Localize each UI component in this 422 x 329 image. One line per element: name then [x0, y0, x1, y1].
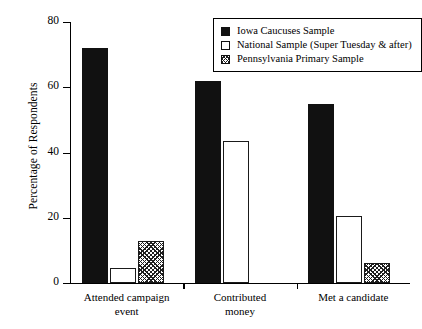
legend-item-iowa: Iowa Caucuses Sample [221, 24, 412, 38]
y-axis-line [70, 22, 71, 283]
y-tick: 80 [63, 22, 70, 23]
bar [308, 104, 334, 283]
x-axis-line [70, 283, 410, 284]
bar [223, 141, 249, 283]
x-group-separator [297, 283, 298, 289]
legend-label-iowa: Iowa Caucuses Sample [237, 26, 334, 37]
legend-item-pennsylvania: Pennsylvania Primary Sample [221, 52, 412, 66]
y-tick: 0 [63, 283, 70, 284]
bar [364, 263, 390, 283]
legend: Iowa Caucuses Sample National Sample (Su… [213, 18, 422, 72]
x-axis-category-label: Met a candidate [297, 291, 410, 305]
bar [82, 48, 108, 283]
legend-swatch-open-icon [221, 41, 230, 50]
bar [195, 81, 221, 283]
x-axis-category-label: Attended campaignevent [70, 291, 183, 319]
y-tick: 60 [63, 87, 70, 88]
legend-label-national: National Sample (Super Tuesday & after) [237, 40, 412, 51]
bar [110, 268, 136, 283]
x-group-separator [183, 283, 184, 289]
y-tick-label: 20 [48, 210, 60, 222]
bar [138, 241, 164, 283]
legend-swatch-solid-icon [221, 27, 230, 36]
y-tick-label: 0 [53, 275, 59, 287]
bar [336, 216, 362, 283]
legend-swatch-hatch-icon [221, 55, 230, 64]
y-tick: 20 [63, 218, 70, 219]
y-tick-label: 80 [48, 14, 60, 26]
y-tick-label: 60 [48, 79, 60, 91]
y-tick: 40 [63, 153, 70, 154]
x-axis-category-label: Contributedmoney [183, 291, 296, 319]
legend-label-pennsylvania: Pennsylvania Primary Sample [237, 54, 364, 65]
y-tick-label: 40 [48, 145, 60, 157]
y-axis-title: Percentage of Respondents [27, 36, 39, 256]
legend-item-national: National Sample (Super Tuesday & after) [221, 38, 412, 52]
